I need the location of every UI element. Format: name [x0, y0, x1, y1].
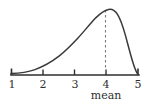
tick-label-3: 3 [67, 79, 83, 90]
tick-label-2: 2 [35, 79, 51, 90]
mean-annotation-label: mean [83, 90, 129, 101]
tick-label-5: 5 [130, 79, 146, 90]
density-curve [11, 9, 138, 74]
axis-tick-marks [12, 69, 139, 76]
tick-label-1: 1 [4, 79, 20, 90]
distribution-figure: 1 2 3 4 5 mean [0, 0, 148, 104]
